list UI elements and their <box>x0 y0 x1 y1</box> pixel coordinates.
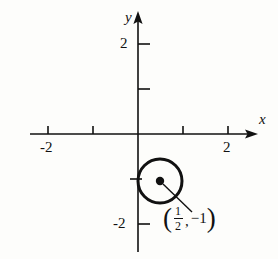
y-coordinate-value: −1 <box>191 211 207 226</box>
fraction-numerator: 1 <box>173 205 183 217</box>
y-axis-label: y <box>125 10 132 25</box>
point-coordinate-label: ( 1 2 , −1 ) <box>163 205 216 232</box>
fraction-one-half: 1 2 <box>173 205 183 232</box>
coordinate-comma: , <box>185 214 189 229</box>
y-tick-label-neg2: -2 <box>113 216 126 231</box>
open-paren: ( <box>163 207 172 229</box>
center-point-dot <box>156 177 164 185</box>
coordinate-plane-svg <box>0 0 278 259</box>
coordinate-plane-figure: x y -2 2 2 -2 ( 1 2 , −1 ) <box>0 0 278 259</box>
close-paren: ) <box>207 207 216 229</box>
fraction-denominator: 2 <box>173 220 183 232</box>
x-tick-label-pos2: 2 <box>223 140 231 155</box>
x-axis-label: x <box>259 112 266 127</box>
x-tick-label-neg2: -2 <box>40 140 53 155</box>
y-tick-label-pos2: 2 <box>120 36 128 51</box>
